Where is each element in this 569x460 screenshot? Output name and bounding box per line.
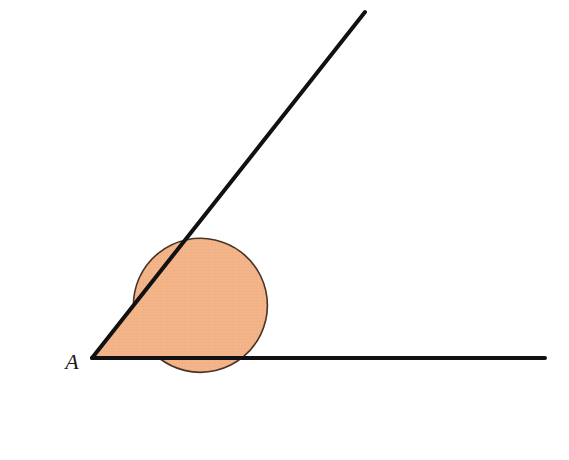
vertex-label-a: A xyxy=(63,349,79,374)
angle-diagram-svg: A xyxy=(0,0,569,460)
reflex-angle-sector xyxy=(92,238,267,372)
angle-figure: A xyxy=(0,0,569,460)
